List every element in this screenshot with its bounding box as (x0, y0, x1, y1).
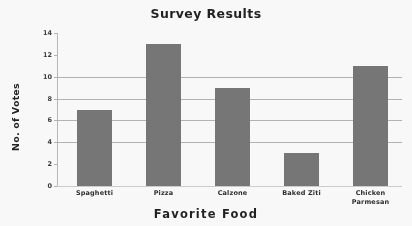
category-label-chicken-parmesan: ChickenParmesan (336, 189, 405, 207)
y-tick-label-12: 12 (43, 51, 52, 59)
y-tick-mark-14 (54, 33, 57, 34)
y-tick-label-6: 6 (47, 116, 52, 124)
category-label-line: Calzone (198, 189, 267, 198)
category-label-line: Pizza (129, 189, 198, 198)
y-tick-label-10: 10 (43, 73, 52, 81)
y-axis-title: No. of Votes (10, 72, 21, 162)
category-label-line: Parmesan (336, 198, 405, 207)
category-label-spaghetti: Spaghetti (60, 189, 129, 198)
y-tick-mark-12 (54, 55, 57, 56)
category-label-calzone: Calzone (198, 189, 267, 198)
gridline-10 (57, 77, 402, 78)
category-label-pizza: Pizza (129, 189, 198, 198)
bar-pizza (146, 44, 181, 186)
x-axis-line (57, 186, 402, 187)
plot-area: 02468101214 SpaghettiPizzaCalzoneBaked Z… (57, 33, 402, 186)
chart-title: Survey Results (0, 6, 412, 21)
bar-chart-figure: Survey Results No. of Votes Favorite Foo… (0, 0, 412, 226)
y-tick-mark-2 (54, 164, 57, 165)
x-axis-title: Favorite Food (0, 207, 412, 221)
y-tick-mark-6 (54, 120, 57, 121)
y-tick-label-14: 14 (43, 29, 52, 37)
y-tick-mark-4 (54, 142, 57, 143)
category-label-line: Chicken (336, 189, 405, 198)
category-label-line: Baked Ziti (267, 189, 336, 198)
category-label-line: Spaghetti (60, 189, 129, 198)
y-tick-label-8: 8 (47, 95, 52, 103)
y-tick-mark-8 (54, 99, 57, 100)
y-tick-label-4: 4 (47, 138, 52, 146)
bar-chicken-parmesan (353, 66, 388, 186)
y-axis-line (57, 33, 58, 186)
bar-calzone (215, 88, 250, 186)
y-tick-label-2: 2 (47, 160, 52, 168)
y-tick-mark-10 (54, 77, 57, 78)
bar-spaghetti (77, 110, 112, 187)
bar-baked-ziti (284, 153, 319, 186)
y-tick-mark-0 (54, 186, 57, 187)
y-tick-label-0: 0 (47, 182, 52, 190)
category-label-baked-ziti: Baked Ziti (267, 189, 336, 198)
